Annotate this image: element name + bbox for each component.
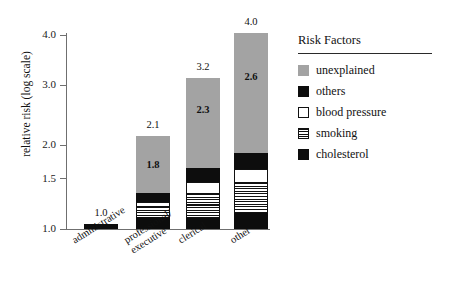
segment-others	[136, 193, 170, 202]
legend-swatch-smoking-icon	[298, 128, 309, 139]
y-axis-line	[66, 33, 67, 229]
legend: Risk Factors unexplained others blood pr…	[296, 33, 442, 168]
legend-label-blood-pressure: blood pressure	[316, 106, 386, 119]
legend-label-unexplained: unexplained	[316, 64, 375, 77]
segment-others	[186, 168, 220, 182]
legend-divider	[298, 53, 432, 54]
chart-figure: 4.0 3.0 2.0 1.5 1.0 relative risk (log s…	[0, 0, 450, 299]
y-tick-mark-1	[60, 229, 66, 230]
segment-unexplained	[186, 78, 220, 168]
segment-cholesterol	[234, 213, 268, 229]
legend-item-blood-pressure: blood pressure	[298, 105, 442, 119]
legend-swatch-others-icon	[298, 86, 309, 97]
y-tick-label-1: 1.0	[26, 223, 56, 234]
segment-smoking	[234, 183, 268, 213]
legend-item-others: others	[298, 84, 442, 98]
legend-item-smoking: smoking	[298, 126, 442, 140]
legend-item-cholesterol: cholesterol	[298, 147, 442, 161]
bar-administrative	[84, 33, 118, 229]
legend-item-unexplained: unexplained	[298, 63, 442, 77]
y-tick-mark-1-5	[60, 178, 66, 179]
legend-label-others: others	[316, 85, 345, 98]
legend-title: Risk Factors	[298, 33, 442, 47]
segment-smoking	[186, 194, 220, 218]
y-tick-mark-2	[60, 145, 66, 146]
bar-unexplained-label-other: 2.6	[221, 72, 281, 83]
legend-swatch-unexplained-icon	[298, 65, 309, 76]
legend-swatch-cholesterol-icon	[298, 149, 309, 160]
legend-label-smoking: smoking	[316, 127, 357, 140]
bar-unexplained-label-clerical: 2.3	[173, 105, 233, 116]
bar-total-label-other: 4.0	[221, 17, 281, 28]
bar-unexplained-label-professional-executive: 1.8	[123, 160, 183, 171]
y-tick-mark-3	[60, 85, 66, 86]
y-tick-mark-4	[60, 35, 66, 36]
segment-blood-pressure	[186, 182, 220, 194]
bar-other	[234, 33, 268, 229]
segment-others	[234, 153, 268, 169]
segment-unexplained	[234, 33, 268, 153]
bar-total-label-clerical: 3.2	[173, 62, 233, 73]
bar-professional-executive	[136, 33, 170, 229]
y-axis-title: relative risk (log scale)	[20, 14, 32, 194]
segment-blood-pressure	[234, 169, 268, 183]
bar-total-label-professional-executive: 2.1	[123, 120, 183, 131]
legend-swatch-blood-pressure-icon	[298, 107, 309, 118]
legend-label-cholesterol: cholesterol	[316, 148, 369, 161]
